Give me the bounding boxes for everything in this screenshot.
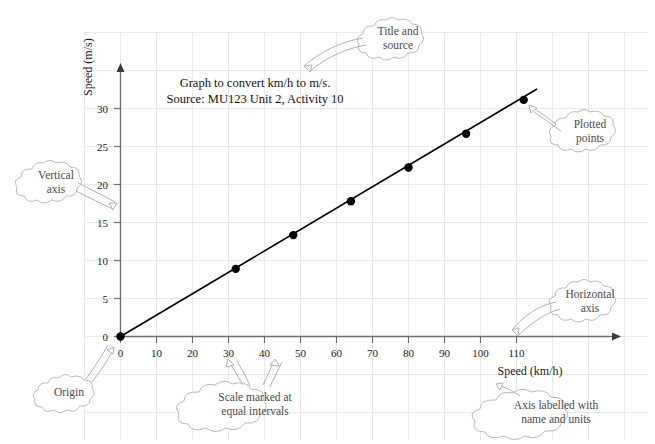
x-tick-label: 40: [259, 347, 271, 359]
callout-line: Plotted: [574, 118, 607, 130]
callout-line: Horizontal: [565, 288, 614, 300]
y-tick-label: 5: [103, 293, 109, 305]
y-tick-label: 25: [97, 141, 109, 153]
x-tick-label: 10: [151, 347, 163, 359]
y-tick-label: 30: [97, 103, 109, 115]
callout-line: Title and: [378, 25, 419, 37]
x-axis-label: Speed (km/h): [498, 364, 563, 378]
callout-line: equal intervals: [221, 405, 289, 418]
x-tick-label: 80: [403, 347, 415, 359]
y-axis-label: Speed (m/s): [81, 38, 95, 96]
callout-line: source: [383, 39, 413, 51]
graph-source: Source: MU123 Unit 2, Activity 10: [166, 92, 343, 106]
callout-line: points: [576, 132, 605, 145]
y-tick-label: 15: [97, 217, 109, 229]
data-point: [462, 130, 470, 138]
x-tick-label: 100: [472, 347, 489, 359]
figure-container: 0 10 20 30 40 50 60 70 80 90 100 110 0 5…: [0, 0, 655, 444]
y-tick-label: 0: [103, 331, 109, 343]
callout-line: Origin: [54, 386, 84, 399]
graph-title: Graph to convert km/h to m/s.: [180, 76, 331, 90]
conversion-graph: 0 10 20 30 40 50 60 70 80 90 100 110 0 5…: [0, 0, 655, 444]
callout-line: Vertical: [38, 169, 74, 181]
data-point: [116, 332, 124, 340]
callout-line: Axis labelled with: [514, 399, 599, 411]
callout-line: Scale marked at: [218, 391, 292, 403]
data-point: [520, 96, 528, 104]
x-tick-label: 50: [295, 347, 307, 359]
x-tick-label: 20: [187, 347, 199, 359]
x-tick-label: 110: [508, 347, 525, 359]
callout-line: axis: [47, 183, 66, 195]
x-tick-label: 30: [223, 347, 235, 359]
data-point: [232, 265, 240, 273]
data-point: [347, 197, 355, 205]
y-tick-label: 20: [97, 179, 109, 191]
callout-line: name and units: [521, 413, 591, 425]
data-point: [404, 163, 412, 171]
y-tick-label: 10: [97, 255, 109, 267]
x-tick-label: 70: [367, 347, 379, 359]
x-tick-label: 90: [439, 347, 451, 359]
callout-line: axis: [581, 302, 600, 314]
x-tick-label: 60: [331, 347, 343, 359]
data-point: [289, 231, 297, 239]
x-tick-label: 0: [118, 347, 124, 359]
